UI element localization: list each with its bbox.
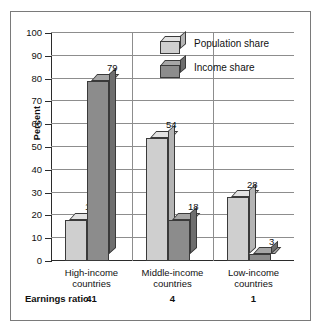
bar-population-share[interactable] — [227, 197, 249, 261]
legend-item-population-share[interactable]: Population share — [160, 34, 290, 58]
cube-light-icon — [160, 36, 186, 54]
bar-income-share[interactable] — [87, 81, 109, 261]
group-separator — [132, 33, 133, 261]
x-axis-category-line: Low-income — [213, 267, 294, 278]
bar-front-face — [146, 138, 168, 261]
y-axis-tick — [45, 215, 51, 216]
y-axis-tick-label: 20 — [13, 210, 42, 220]
bar-value-label: 54 — [166, 120, 177, 130]
bar-side-face — [109, 68, 116, 254]
bar-income-share[interactable] — [249, 254, 271, 261]
y-axis-tick — [45, 261, 51, 262]
bar-value-label: 3 — [269, 237, 274, 247]
x-axis-category-label: Middle-incomecountries — [132, 267, 213, 289]
y-axis-tick — [45, 124, 51, 125]
y-axis-tick — [45, 238, 51, 239]
legend-label-population-share: Population share — [194, 38, 269, 49]
bar-value-label: 28 — [247, 180, 258, 190]
y-axis-tick-label: 60 — [13, 119, 42, 129]
y-axis-tick-label: 40 — [13, 165, 42, 175]
y-axis-tick-label: 0 — [13, 256, 42, 266]
earnings-ratio-value: 4 — [132, 293, 213, 304]
bar-side-face — [249, 184, 256, 254]
y-axis-tick-label: 70 — [13, 96, 42, 106]
y-axis-tick — [45, 56, 51, 57]
bar-front-face — [168, 220, 190, 261]
x-axis-category-line: countries — [213, 278, 294, 289]
x-axis-category-line: High-income — [51, 267, 132, 278]
bar-front-face — [249, 254, 271, 261]
bar-population-share[interactable] — [65, 220, 87, 261]
gridline — [51, 32, 294, 33]
y-axis-tick — [45, 170, 51, 171]
y-axis-tick-label: 90 — [13, 51, 42, 61]
y-axis-tick — [45, 79, 51, 80]
y-axis-tick-label: 100 — [13, 28, 42, 38]
x-axis-category-label: Low-incomecountries — [213, 267, 294, 289]
x-axis-category-line: countries — [132, 278, 213, 289]
earnings-ratio-row: Earnings ratio 4141 — [11, 291, 310, 309]
y-axis-tick-label: 80 — [13, 74, 42, 84]
y-axis-tick — [45, 147, 51, 148]
cube-dark-icon — [160, 60, 186, 78]
x-axis-category-line: Middle-income — [132, 267, 213, 278]
bar-front-face — [87, 81, 109, 261]
y-axis-tick-label: 10 — [13, 233, 42, 243]
bar-front-face — [65, 220, 87, 261]
bar-front-face — [227, 197, 249, 261]
legend-label-income-share: Income share — [194, 62, 255, 73]
earnings-ratio-value: 1 — [213, 293, 294, 304]
earnings-ratio-value: 41 — [51, 293, 132, 304]
y-axis-tick-label: 30 — [13, 188, 42, 198]
x-axis-category-line: countries — [51, 278, 132, 289]
bar-income-share[interactable] — [168, 220, 190, 261]
y-axis-tick — [45, 193, 51, 194]
bar-value-label: 79 — [107, 63, 118, 73]
chart-legend: Population share Income share — [160, 34, 290, 82]
bar-side-face — [190, 207, 197, 254]
y-axis-tick — [45, 33, 51, 34]
bar-value-label: 18 — [188, 202, 199, 212]
x-axis-category-label: High-incomecountries — [51, 267, 132, 289]
y-axis-tick-label: 50 — [13, 142, 42, 152]
y-axis-tick — [45, 101, 51, 102]
legend-item-income-share[interactable]: Income share — [160, 58, 290, 82]
bar-population-share[interactable] — [146, 138, 168, 261]
chart-figure: Percent 18795418283 10090807060504030201… — [0, 0, 325, 334]
